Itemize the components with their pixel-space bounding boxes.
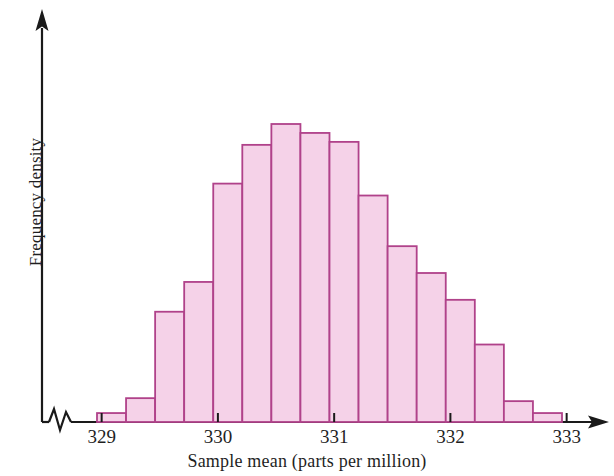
histogram-bar [300,133,329,422]
histogram-bar [417,273,446,422]
histogram-bar [213,184,242,422]
histogram-bar [126,398,155,422]
histogram-bar [359,196,388,422]
histogram-bar [475,345,504,422]
histogram-bar [155,312,184,422]
x-tick-label: 331 [320,426,349,447]
histogram-bar [242,145,271,422]
histogram-bar [504,401,533,422]
histogram-bar [271,124,300,422]
histogram-chart: 329330331332333 Frequency density Sample… [0,0,614,476]
histogram-bars [97,124,562,422]
x-tick-label: 330 [204,426,233,447]
histogram-bar [446,300,475,422]
x-tick-label: 329 [87,426,116,447]
histogram-bar [184,282,213,422]
chart-canvas: 329330331332333 [0,0,614,476]
histogram-bar [330,142,359,422]
histogram-bar [533,413,562,422]
axis-break-zigzag [49,409,71,430]
y-axis-label: Frequency density [26,52,46,352]
x-axis-label: Sample mean (parts per million) [0,451,614,472]
x-tick-label: 332 [436,426,465,447]
histogram-bar [388,246,417,422]
x-tick-label: 333 [552,426,581,447]
